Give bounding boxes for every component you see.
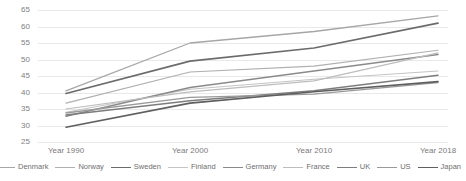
legend-label: Norway xyxy=(78,163,103,171)
legend-label: France xyxy=(306,163,329,171)
legend-label: Denmark xyxy=(18,163,48,171)
legend-swatch-icon xyxy=(168,167,188,168)
legend-item-japan[interactable]: Japan xyxy=(418,163,461,171)
legend-swatch-icon xyxy=(418,167,438,168)
legend-item-sweden[interactable]: Sweden xyxy=(111,163,161,171)
x-axis-label: Year 2010 xyxy=(279,146,349,155)
chart-legend: DenmarkNorwaySwedenFinlandGermanyFranceU… xyxy=(0,163,456,171)
legend-item-denmark[interactable]: Denmark xyxy=(0,163,48,171)
y-axis-label: 40 xyxy=(0,89,30,97)
legend-label: UK xyxy=(360,163,370,171)
y-axis-label: 65 xyxy=(0,6,30,14)
legend-swatch-icon xyxy=(337,167,357,168)
series-line-uk xyxy=(66,75,438,115)
legend-label: Germany xyxy=(246,163,277,171)
legend-item-us[interactable]: US xyxy=(377,163,410,171)
y-axis-label: 25 xyxy=(0,138,30,146)
x-axis-label: Year 2018 xyxy=(403,146,466,155)
legend-label: Japan xyxy=(441,163,461,171)
series-lines xyxy=(38,10,448,142)
x-axis-label: Year 1990 xyxy=(31,146,101,155)
legend-label: US xyxy=(400,163,410,171)
y-axis-label: 30 xyxy=(0,122,30,130)
legend-label: Sweden xyxy=(134,163,161,171)
legend-swatch-icon xyxy=(223,167,243,168)
legend-swatch-icon xyxy=(377,167,397,168)
legend-swatch-icon xyxy=(0,167,15,168)
legend-label: Finland xyxy=(191,163,216,171)
y-axis-label: 50 xyxy=(0,56,30,64)
x-axis-label: Year 2000 xyxy=(155,146,225,155)
legend-item-germany[interactable]: Germany xyxy=(223,163,277,171)
y-axis-label: 55 xyxy=(0,39,30,47)
y-axis-label: 60 xyxy=(0,23,30,31)
legend-item-norway[interactable]: Norway xyxy=(55,163,103,171)
legend-item-uk[interactable]: UK xyxy=(337,163,370,171)
y-axis-label: 35 xyxy=(0,105,30,113)
legend-item-france[interactable]: France xyxy=(283,163,329,171)
legend-swatch-icon xyxy=(111,167,131,168)
gridline xyxy=(38,142,448,143)
y-axis-label: 45 xyxy=(0,72,30,80)
legend-swatch-icon xyxy=(55,167,75,168)
plot-area xyxy=(38,10,448,142)
legend-swatch-icon xyxy=(283,167,303,168)
legend-item-finland[interactable]: Finland xyxy=(168,163,216,171)
